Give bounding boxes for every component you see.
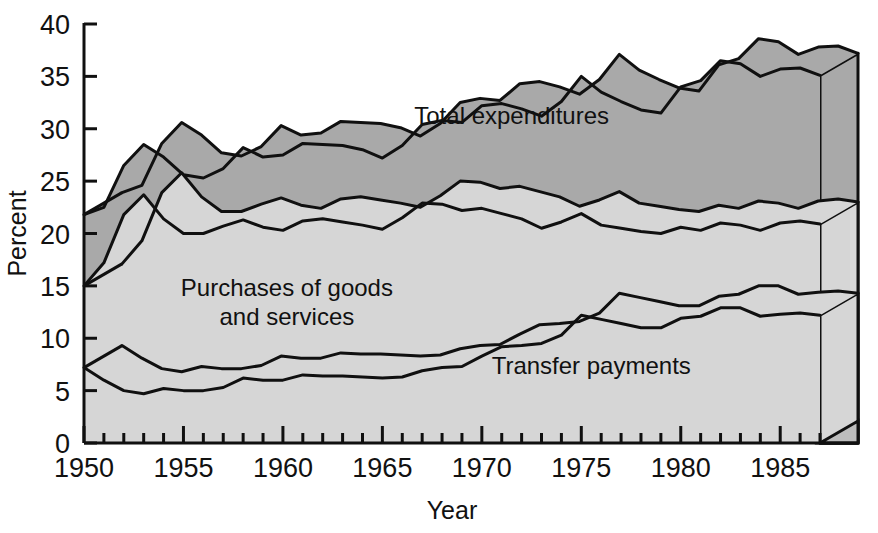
- x-tick-label: 1975: [551, 453, 611, 483]
- series-right-face: [820, 293, 858, 443]
- x-tick-label: 1970: [452, 453, 512, 483]
- label-transfer-payments: Transfer payments: [492, 352, 691, 379]
- x-tick-label: 1955: [153, 453, 213, 483]
- x-tick-label: 1950: [54, 453, 114, 483]
- x-tick-label: 1980: [651, 453, 711, 483]
- label-total-expenditures: Total expenditures: [414, 102, 609, 129]
- y-tick-label: 40: [40, 10, 70, 40]
- x-tick-label: 1960: [253, 453, 313, 483]
- y-tick-label: 10: [40, 324, 70, 354]
- x-axis-title: Year: [427, 496, 478, 524]
- y-tick-label: 15: [40, 272, 70, 302]
- y-axis-title: Percent: [3, 190, 31, 276]
- x-tick-label: 1965: [352, 453, 412, 483]
- chart-figure: 0510152025303540195019551960196519701975…: [0, 0, 878, 533]
- label-purchases-line1: Purchases of goods: [181, 274, 393, 301]
- y-tick-label: 30: [40, 115, 70, 145]
- y-tick-label: 25: [40, 167, 70, 197]
- label-purchases-line2: and services: [220, 303, 355, 330]
- y-tick-label: 20: [40, 220, 70, 250]
- y-tick-label: 5: [55, 377, 70, 407]
- three-d-area-chart: 0510152025303540195019551960196519701975…: [0, 0, 878, 533]
- x-tick-label: 1985: [750, 453, 810, 483]
- y-tick-label: 35: [40, 62, 70, 92]
- plot-area: [84, 39, 858, 443]
